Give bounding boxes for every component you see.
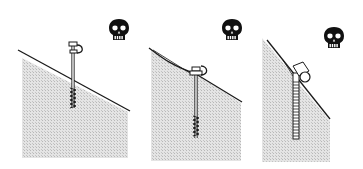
ice-screw-diagram bbox=[0, 0, 363, 169]
panel-1 bbox=[18, 19, 130, 158]
skull-icon bbox=[222, 19, 242, 40]
ice-slope bbox=[22, 58, 128, 158]
skull-icon bbox=[109, 19, 129, 40]
panel-3 bbox=[262, 27, 344, 162]
skull-icon bbox=[324, 27, 344, 48]
panel-2 bbox=[149, 19, 242, 161]
